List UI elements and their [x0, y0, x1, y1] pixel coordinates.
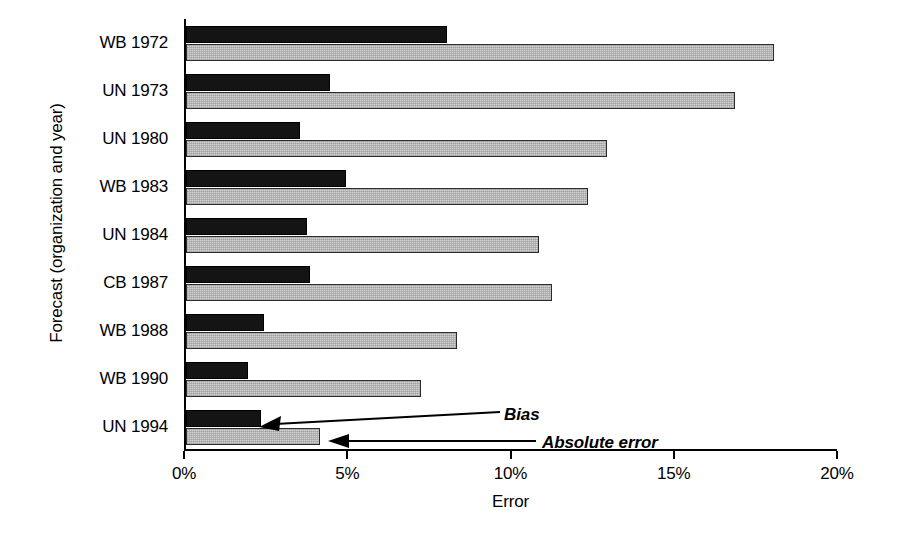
- y-axis-tick-labels: WB 1972UN 1973UN 1980WB 1983UN 1984CB 19…: [58, 19, 176, 451]
- x-axis-tick: [673, 451, 675, 459]
- x-axis-tick-label: 5%: [335, 464, 359, 484]
- y-axis-tick-label: UN 1980: [50, 129, 168, 149]
- x-axis-tick: [836, 451, 838, 459]
- chart-figure: Forecast (organization and year) WB 1972…: [0, 0, 921, 539]
- bar-group: [186, 74, 839, 109]
- annotation-absolute-error-label: Absolute error: [542, 433, 658, 453]
- x-axis-tick: [346, 451, 348, 459]
- bar-absolute-error: [186, 332, 457, 349]
- y-axis-tick-label: WB 1972: [50, 33, 168, 53]
- bar-group: [186, 266, 839, 301]
- y-axis-tick-label: WB 1990: [50, 369, 168, 389]
- bar-bias: [186, 266, 310, 283]
- y-axis-tick-label: UN 1984: [50, 225, 168, 245]
- bar-group: [186, 218, 839, 253]
- y-axis-tick-label: UN 1973: [50, 81, 168, 101]
- y-axis-tick-label: WB 1983: [50, 177, 168, 197]
- y-axis-tick-label: UN 1994: [50, 417, 168, 437]
- bar-absolute-error: [186, 236, 539, 253]
- x-axis-tick-label: 20%: [820, 464, 853, 484]
- x-axis-tick-label: 10%: [494, 464, 527, 484]
- bar-bias: [186, 362, 248, 379]
- bar-absolute-error: [186, 92, 735, 109]
- bar-group: [186, 122, 839, 157]
- bar-absolute-error: [186, 428, 320, 445]
- bar-bias: [186, 26, 447, 43]
- bar-bias: [186, 170, 346, 187]
- bar-bias: [186, 218, 307, 235]
- bar-absolute-error: [186, 140, 607, 157]
- x-axis-tick: [183, 451, 185, 459]
- bar-group: [186, 314, 839, 349]
- bar-group: [186, 362, 839, 397]
- y-axis-tick-label: CB 1987: [50, 273, 168, 293]
- bar-group: [186, 26, 839, 61]
- bar-bias: [186, 74, 330, 91]
- bar-bias: [186, 314, 264, 331]
- x-axis-tick: [510, 451, 512, 459]
- x-axis-tick-label: 0%: [172, 464, 196, 484]
- plot-area: 0%5%10%15%20%: [184, 19, 837, 451]
- bar-bias: [186, 122, 300, 139]
- x-axis-tick-label: 15%: [657, 464, 690, 484]
- annotation-bias-label: Bias: [504, 405, 540, 425]
- y-axis-tick-label: WB 1988: [50, 321, 168, 341]
- x-axis-title: Error: [184, 492, 837, 512]
- bar-absolute-error: [186, 44, 774, 61]
- bar-absolute-error: [186, 380, 421, 397]
- bar-bias: [186, 410, 261, 427]
- bar-absolute-error: [186, 284, 552, 301]
- bar-absolute-error: [186, 188, 588, 205]
- bar-group: [186, 170, 839, 205]
